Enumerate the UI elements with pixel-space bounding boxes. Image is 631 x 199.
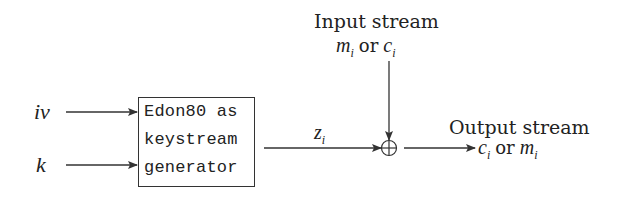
output-or: or — [495, 137, 514, 158]
iv-text: iv — [34, 99, 50, 124]
input-sub-2: i — [392, 46, 395, 60]
k-label: k — [36, 152, 46, 178]
input-stream-title: Input stream — [314, 10, 439, 32]
input-var-c: c — [383, 34, 392, 56]
xor-icon — [382, 141, 397, 156]
box-line-2: keystream — [139, 126, 254, 154]
edon80-generator-box: Edon80 as keystream generator — [138, 97, 255, 187]
output-stream-title: Output stream — [449, 116, 590, 138]
input-stream-vars: mi or ci — [336, 34, 395, 61]
output-var-m: m — [520, 136, 534, 158]
output-var-c: c — [478, 136, 487, 158]
input-or: or — [359, 35, 378, 56]
input-var-m: m — [336, 34, 350, 56]
output-stream-title-text: Output stream — [449, 116, 590, 138]
box-line-3: generator — [139, 154, 254, 182]
output-sub-2: i — [534, 148, 537, 162]
k-text: k — [36, 152, 46, 177]
input-sub-1: i — [350, 46, 353, 60]
output-stream-vars: ci or mi — [478, 136, 537, 163]
keystream-sub: i — [322, 133, 325, 147]
box-line-1: Edon80 as — [139, 98, 254, 126]
iv-label: iv — [34, 99, 50, 125]
input-stream-title-text: Input stream — [314, 10, 439, 32]
keystream-label: zi — [314, 121, 325, 148]
output-sub-1: i — [487, 148, 490, 162]
keystream-var: z — [314, 121, 322, 143]
